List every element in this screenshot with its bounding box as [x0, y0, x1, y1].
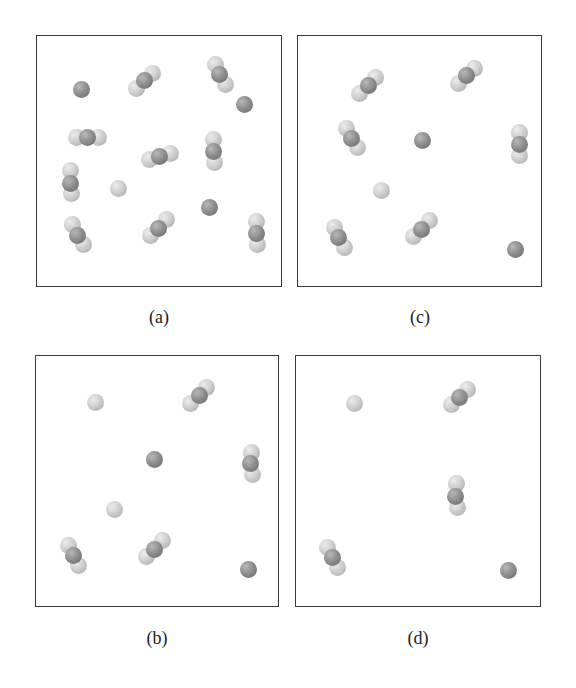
light-atom-icon — [373, 182, 390, 199]
dark-atom-icon — [205, 143, 222, 160]
dark-atom-icon — [146, 541, 163, 558]
panel-label-d: (d) — [388, 628, 448, 648]
panel-d — [295, 355, 541, 607]
dark-atom-icon — [236, 96, 253, 113]
dark-atom-icon — [511, 136, 528, 153]
light-atom-icon — [106, 501, 123, 518]
dark-atom-icon — [242, 455, 259, 472]
dark-atom-icon — [447, 488, 464, 505]
dark-atom-icon — [360, 77, 377, 94]
dark-atom-icon — [458, 67, 475, 84]
dark-atom-icon — [136, 72, 153, 89]
dark-atom-icon — [201, 199, 218, 216]
dark-atom-icon — [343, 130, 360, 147]
dark-atom-icon — [146, 451, 163, 468]
dark-atom-icon — [500, 562, 517, 579]
panel-label-c: (c) — [390, 307, 450, 327]
dark-atom-icon — [211, 66, 228, 83]
dark-atom-icon — [62, 175, 79, 192]
dark-atom-icon — [191, 387, 208, 404]
dark-atom-icon — [151, 148, 168, 165]
panel-c — [297, 35, 542, 287]
dark-atom-icon — [330, 229, 347, 246]
dark-atom-icon — [324, 549, 341, 566]
dark-atom-icon — [413, 221, 430, 238]
panel-a — [36, 35, 282, 287]
dark-atom-icon — [451, 389, 468, 406]
panel-label-a: (a) — [129, 307, 189, 327]
dark-atom-icon — [150, 220, 167, 237]
light-atom-icon — [110, 180, 127, 197]
dark-atom-icon — [507, 241, 524, 258]
dark-atom-icon — [73, 81, 90, 98]
dark-atom-icon — [79, 129, 96, 146]
dark-atom-icon — [414, 132, 431, 149]
light-atom-icon — [87, 394, 104, 411]
light-atom-icon — [346, 395, 363, 412]
dark-atom-icon — [240, 561, 257, 578]
panel-b — [35, 355, 279, 607]
dark-atom-icon — [65, 547, 82, 564]
dark-atom-icon — [69, 227, 86, 244]
panel-label-b: (b) — [127, 628, 187, 648]
dark-atom-icon — [248, 225, 265, 242]
